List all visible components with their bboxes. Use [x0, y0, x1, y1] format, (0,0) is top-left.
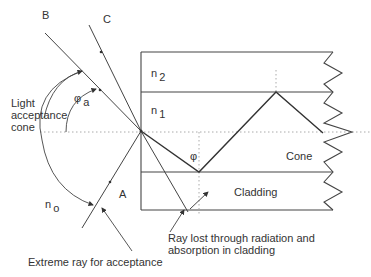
ray-c	[89, 25, 141, 131]
ray-c-label: C	[103, 13, 111, 26]
n0-label: no	[45, 198, 59, 211]
cladding-loss-arrow	[190, 192, 208, 209]
core-label: Cone	[286, 150, 312, 163]
ray-b-label: B	[42, 9, 49, 22]
cladding-label: Cladding	[234, 186, 277, 199]
ray-a	[82, 131, 141, 228]
n2-label: n2	[151, 67, 165, 80]
acceptance-angle-label: φa	[74, 92, 89, 105]
n1-label: n1	[151, 104, 165, 117]
light-acceptance-cone-label: Light acceptance cone	[11, 97, 67, 133]
ray-lost-pointer	[170, 210, 184, 232]
ray-a-label: A	[119, 188, 126, 201]
fiber-break-zigzag	[324, 52, 352, 210]
ray-lost-caption: Ray lost through radiation and absorptio…	[168, 232, 315, 256]
internal-angle-label: φ	[190, 150, 197, 163]
extreme-ray-pointer	[102, 208, 132, 251]
extreme-ray-caption: Extreme ray for acceptance	[28, 256, 163, 269]
